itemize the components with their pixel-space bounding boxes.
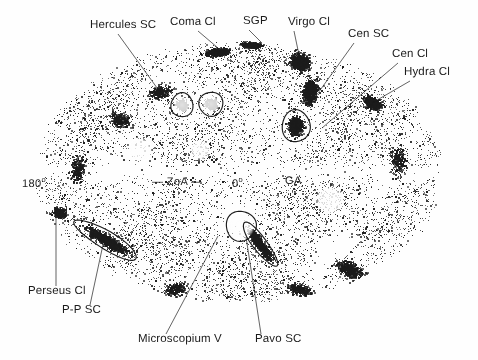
label-pavo-sc: Pavo SC xyxy=(255,334,301,346)
label-virgo-cl: Virgo Cl xyxy=(288,17,330,29)
sky-map-figure: Hercules SC Coma Cl SGP Virgo Cl Cen SC … xyxy=(0,0,478,360)
coord-label-180-degrees: 180o xyxy=(22,176,46,190)
coord-label-0-degrees: 0o xyxy=(232,176,243,190)
coord-180-degree-symbol: o xyxy=(42,175,46,184)
coord-label-zone-of-avoidance: — ZoA — xyxy=(152,177,202,188)
label-cen-cl: Cen Cl xyxy=(392,49,428,61)
label-cen-sc: Cen SC xyxy=(348,29,389,41)
label-sgp: SGP xyxy=(243,16,268,28)
label-coma-cl: Coma Cl xyxy=(170,17,216,29)
coord-0-degree-symbol: o xyxy=(239,175,243,184)
label-pp-sc: P-P SC xyxy=(62,305,101,317)
label-hydra-cl: Hydra Cl xyxy=(404,67,450,79)
label-microscopium-void: Microscopium V xyxy=(138,334,222,346)
coord-180-value: 180 xyxy=(22,178,42,190)
coord-label-great-attractor: GA xyxy=(285,176,302,187)
label-hercules-sc: Hercules SC xyxy=(90,20,156,32)
label-perseus-cl: Perseus Cl xyxy=(28,286,86,298)
